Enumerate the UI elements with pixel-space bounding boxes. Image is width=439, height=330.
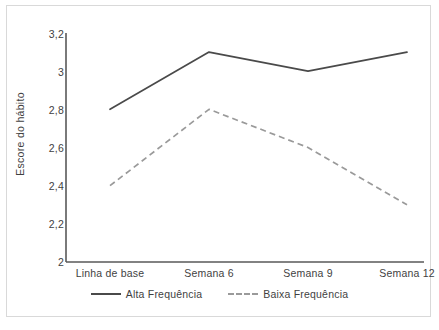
- y-axis-title: Escore do hábito: [14, 79, 26, 189]
- chart-legend: Alta Frequência Baixa Frequência: [0, 288, 439, 300]
- y-tick-label: 3,2: [32, 29, 64, 40]
- x-tick-label-semana-12: Semana 12: [359, 267, 439, 279]
- y-tick-label: 2,8: [32, 105, 64, 116]
- line-chart-plot: [0, 0, 439, 330]
- y-tick-label: 2,4: [32, 181, 64, 192]
- series-line-alta-frequencia: [110, 52, 407, 109]
- x-tick-label-semana-9: Semana 9: [260, 267, 356, 279]
- legend-swatch-dashed-line: [228, 293, 258, 295]
- x-tick-label-linha-de-base: Linha de base: [62, 267, 158, 279]
- y-tick-label: 2,2: [32, 219, 64, 230]
- legend-entry-alta-frequencia: Alta Frequência: [91, 288, 203, 300]
- legend-label: Alta Frequência: [126, 288, 203, 300]
- y-axis-tick-labels: 3,2 3 2,8 2,6 2,4 2,2 2: [26, 0, 64, 330]
- chart-figure: 3,2 3 2,8 2,6 2,4 2,2 2 Escore do hábito…: [0, 0, 439, 330]
- y-tick-label: 3: [32, 67, 64, 78]
- legend-swatch-solid-line: [91, 293, 121, 295]
- legend-entry-baixa-frequencia: Baixa Frequência: [228, 288, 348, 300]
- series-line-baixa-frequencia: [110, 109, 407, 205]
- legend-label: Baixa Frequência: [263, 288, 348, 300]
- y-tick-label: 2: [32, 257, 64, 268]
- x-tick-label-semana-6: Semana 6: [161, 267, 257, 279]
- y-tick-label: 2,6: [32, 143, 64, 154]
